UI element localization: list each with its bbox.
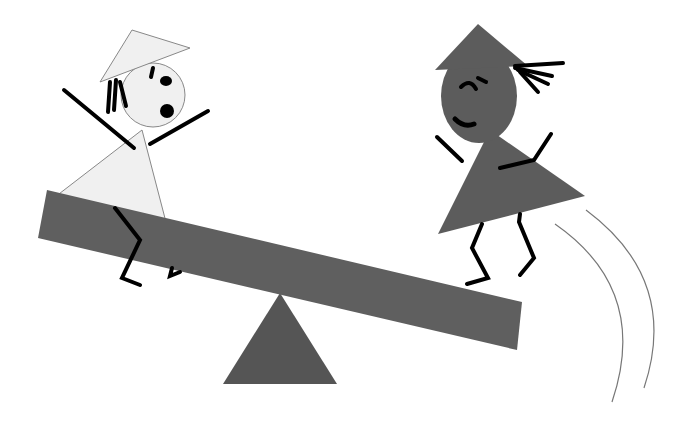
seesaw-illustration xyxy=(0,0,694,425)
dark-figure-hat xyxy=(435,24,528,70)
fulcrum xyxy=(223,293,337,384)
motion-lines xyxy=(555,210,654,402)
dark-figure xyxy=(435,24,585,284)
dark-figure-body xyxy=(438,130,585,234)
light-figure xyxy=(55,30,208,226)
